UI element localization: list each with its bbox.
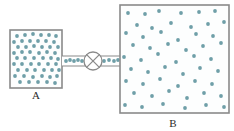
gas-particle xyxy=(174,60,178,64)
gas-particle xyxy=(192,54,196,58)
gas-particle xyxy=(140,105,144,109)
gas-particle xyxy=(201,44,205,48)
gas-particle xyxy=(57,68,61,72)
gas-particle xyxy=(141,82,145,86)
gas-particle xyxy=(102,59,106,63)
gas-particle xyxy=(135,23,139,27)
gas-particle xyxy=(183,106,187,110)
figure-canvas: A B xyxy=(0,0,234,131)
gas-particle xyxy=(52,40,56,44)
gas-particle xyxy=(181,72,185,76)
chamber-a-label: A xyxy=(32,89,40,101)
gas-particle xyxy=(20,50,24,54)
gas-particle xyxy=(22,74,26,78)
gas-particle xyxy=(156,52,160,56)
gas-particle xyxy=(211,34,215,38)
gas-particle xyxy=(123,103,127,107)
gas-particle xyxy=(40,74,44,78)
gas-particle xyxy=(12,40,16,44)
gas-particle xyxy=(159,30,163,34)
gas-particle xyxy=(219,41,223,45)
gas-particle xyxy=(189,25,193,29)
gas-particle xyxy=(143,12,147,16)
gas-particle xyxy=(47,33,51,37)
gas-particle xyxy=(76,58,80,62)
gas-particle xyxy=(124,79,128,83)
gas-particle xyxy=(27,80,31,84)
gas-particle xyxy=(15,56,19,60)
gas-particle xyxy=(32,44,36,48)
gas-particle xyxy=(20,62,24,66)
gas-particle xyxy=(25,68,29,72)
gas-particle xyxy=(184,48,188,52)
valve-group[interactable] xyxy=(84,52,102,70)
gas-particle xyxy=(54,34,58,38)
gas-particle xyxy=(139,58,143,62)
gas-particle xyxy=(126,11,130,15)
gas-particle xyxy=(169,21,173,25)
gas-particle xyxy=(179,11,183,15)
gas-particle xyxy=(36,80,40,84)
gas-particle xyxy=(39,33,43,37)
gas-particle xyxy=(15,34,19,38)
gas-particle xyxy=(53,81,57,85)
gas-particle xyxy=(45,50,49,54)
gas-particle xyxy=(166,42,170,46)
diagram-svg: A B xyxy=(0,0,234,131)
gas-particle xyxy=(80,59,84,63)
gas-particle xyxy=(32,56,36,60)
gas-particle xyxy=(33,68,37,72)
gas-particle xyxy=(146,70,150,74)
gas-particle xyxy=(107,58,111,62)
gas-particle xyxy=(28,50,32,54)
gas-particle xyxy=(13,74,17,78)
gas-particle xyxy=(210,82,214,86)
gas-particle xyxy=(31,75,35,79)
gas-particle xyxy=(198,66,202,70)
gas-particle xyxy=(53,51,57,55)
gas-particle xyxy=(148,46,152,50)
chamber-a-group: A xyxy=(10,30,62,101)
gas-particle xyxy=(219,94,223,98)
gas-particle xyxy=(176,38,180,42)
gas-particle xyxy=(55,74,59,78)
gas-particle xyxy=(64,59,68,63)
gas-particle xyxy=(16,45,20,49)
gas-particle xyxy=(131,43,135,47)
gas-particle xyxy=(31,32,35,36)
gas-particle xyxy=(204,103,208,107)
gas-particle xyxy=(18,80,22,84)
gas-particle xyxy=(56,57,60,61)
gas-particle xyxy=(206,22,210,26)
gas-particle xyxy=(46,62,50,66)
gas-particle xyxy=(50,68,54,72)
gas-particle xyxy=(45,80,49,84)
gas-particle xyxy=(197,10,201,14)
gas-particle xyxy=(72,59,76,63)
gas-particle xyxy=(16,68,20,72)
gas-particle xyxy=(54,62,58,66)
gas-particle xyxy=(193,79,197,83)
gas-particle xyxy=(122,55,126,59)
gas-particle xyxy=(68,58,72,62)
gas-particle xyxy=(194,32,198,36)
gas-particle xyxy=(124,31,128,35)
gas-particle xyxy=(167,89,171,93)
gas-particle xyxy=(132,91,136,95)
gas-particle xyxy=(29,62,33,66)
gas-particle xyxy=(23,56,27,60)
gas-particle xyxy=(56,45,60,49)
gas-particle xyxy=(213,9,217,13)
gas-particle xyxy=(28,39,32,43)
gas-particle xyxy=(222,20,226,24)
gas-particle xyxy=(158,77,162,81)
gas-particle xyxy=(163,65,167,69)
chamber-b-label: B xyxy=(169,117,176,129)
gas-particle xyxy=(141,35,145,39)
gas-particle xyxy=(36,39,40,43)
gas-particle xyxy=(24,45,28,49)
gas-particle xyxy=(12,62,16,66)
gas-particle xyxy=(129,67,133,71)
gas-particle xyxy=(157,9,161,13)
gas-particle xyxy=(161,102,165,106)
